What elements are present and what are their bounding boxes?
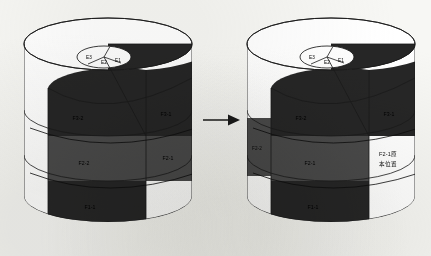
right-band-F1-1 — [271, 181, 369, 236]
left-label-F1-1: F1-1 — [84, 204, 95, 210]
right-sector-label-E2: E2 — [324, 60, 330, 65]
right-label-F3-2: F3-2 — [295, 115, 306, 121]
right-sector-label-E1: E1 — [338, 58, 344, 63]
right-arrow-icon — [203, 115, 240, 126]
left-label-F2-2: F2-2 — [78, 160, 89, 166]
right-vacated-label-line2: 本位置 — [379, 160, 397, 168]
left-cylinder: E3 E2 E1 — [20, 18, 200, 236]
right-cylinder: E3 E2 E1 F3-2 — [243, 18, 419, 236]
left-label-F2-1: F2-1 — [162, 155, 173, 161]
left-sector-label-E1: E1 — [115, 58, 121, 63]
right-sector-label-E3: E3 — [309, 55, 315, 60]
right-label-F2-1: F2-1 — [304, 160, 315, 166]
figure-canvas: E3 E2 E1 — [0, 0, 431, 256]
right-vacated-region — [369, 136, 419, 181]
right-label-F3-1: F3-1 — [383, 111, 394, 117]
left-label-F3-1: F3-1 — [160, 111, 171, 117]
right-band-F3-1 — [369, 60, 419, 136]
right-label-F1-1: F1-1 — [307, 204, 318, 210]
left-band-F3-2 — [48, 68, 146, 136]
diagram-stage: E3 E2 E1 — [0, 0, 431, 256]
right-band-F3-2 — [271, 68, 369, 136]
left-label-F3-2: F3-2 — [72, 115, 83, 121]
right-vacated-label-line1: F2-1原 — [379, 151, 397, 157]
right-label-F2-2: F2-2 — [252, 146, 262, 151]
left-band-F3-1 — [146, 60, 196, 136]
cylinder-figure: E3 E2 E1 — [0, 0, 431, 256]
left-sector-label-E3: E3 — [86, 55, 92, 60]
left-band-F1-1 — [48, 181, 146, 236]
left-sector-label-E2: E2 — [101, 60, 107, 65]
